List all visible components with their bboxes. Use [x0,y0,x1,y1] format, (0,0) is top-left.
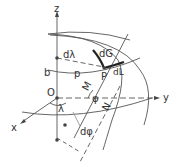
origin-label: O [47,87,55,98]
origin-point [55,96,59,100]
d-phi-label: dφ [80,126,93,137]
x-axis-label: x [11,122,17,133]
n-center-point [55,138,59,142]
parallel-through-p [48,58,140,73]
d-l-label: dL [113,67,124,77]
y-arrow [154,96,160,100]
y-axis-label: y [163,92,169,103]
b-label: b [44,67,50,78]
d-lambda-label: dλ [63,49,75,60]
normal-line-n [80,86,120,162]
lambda-label: λ [58,103,64,114]
b-point [55,56,59,60]
d-g-label: dG [99,48,113,59]
m-label: M [80,80,94,93]
x-axis [22,98,57,122]
ellipsoid-diagram: z y x O b P p dλ dG dL M N φ λ dφ [0,0,181,167]
bottom-dashed [57,138,80,152]
p-point [103,67,106,70]
point-p-label: P [101,71,107,82]
z-axis-label: z [54,3,59,14]
m-center-point [63,123,67,127]
phi-label: φ [92,93,99,104]
p-radius-label: p [74,68,80,79]
